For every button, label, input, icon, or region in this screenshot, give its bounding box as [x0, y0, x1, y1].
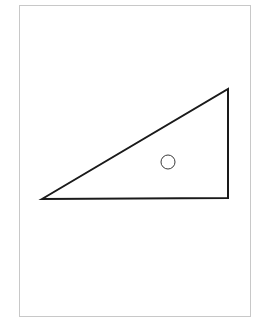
- diagram-canvas: [0, 0, 265, 327]
- circle-marker: [161, 155, 175, 169]
- page-frame: [20, 6, 251, 317]
- right-triangle-shape: [42, 89, 228, 199]
- triangle-diagram: [0, 0, 265, 327]
